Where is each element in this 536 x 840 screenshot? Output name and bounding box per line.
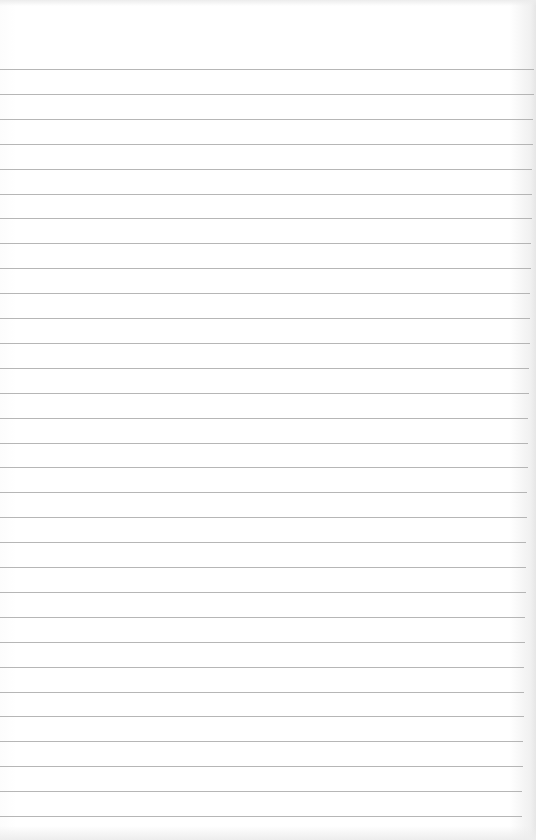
ruled-line — [0, 642, 525, 643]
ruled-line — [0, 368, 529, 369]
ruled-line — [0, 94, 534, 95]
ruled-line — [0, 517, 527, 518]
ruled-line — [0, 542, 526, 543]
ruled-line — [0, 393, 529, 394]
ruled-line — [0, 741, 523, 742]
ruled-line — [0, 692, 524, 693]
ruled-line — [0, 418, 528, 419]
ruled-line — [0, 194, 532, 195]
ruled-line — [0, 467, 528, 468]
ruled-line — [0, 816, 522, 817]
ruled-line — [0, 218, 532, 219]
ruled-line — [0, 343, 530, 344]
ruled-line — [0, 69, 534, 70]
ruled-line — [0, 119, 533, 120]
lined-paper-sheet — [0, 0, 536, 840]
ruled-line — [0, 268, 531, 269]
ruled-line — [0, 592, 526, 593]
ruled-line — [0, 667, 524, 668]
ruled-line — [0, 716, 524, 717]
ruled-line — [0, 617, 525, 618]
ruled-line — [0, 169, 532, 170]
ruled-line — [0, 293, 530, 294]
ruled-line — [0, 567, 526, 568]
ruled-line — [0, 243, 531, 244]
ruled-line — [0, 791, 522, 792]
ruled-line — [0, 144, 533, 145]
ruled-line — [0, 318, 530, 319]
ruled-line — [0, 766, 523, 767]
ruled-line — [0, 492, 527, 493]
ruled-line — [0, 443, 528, 444]
